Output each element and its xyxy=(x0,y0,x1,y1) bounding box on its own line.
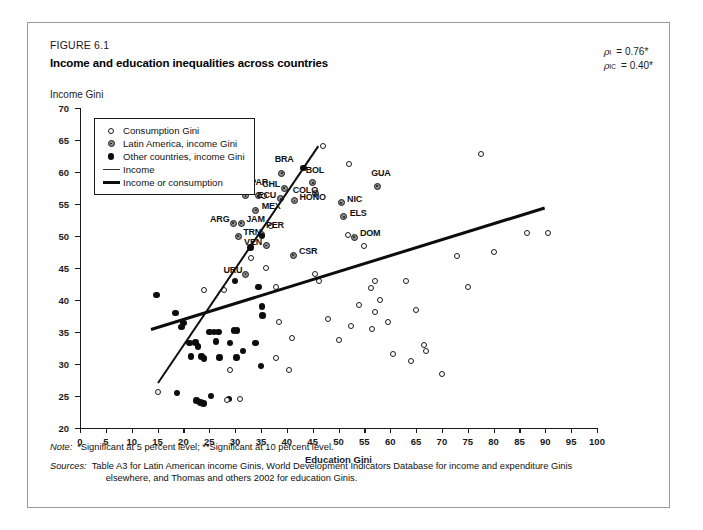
y-tick xyxy=(75,332,80,333)
data-point xyxy=(172,310,179,317)
data-point xyxy=(545,230,551,236)
country-label: ARG xyxy=(210,214,229,224)
sources-label: Sources: xyxy=(50,460,87,484)
y-tick-label: 40 xyxy=(58,295,69,306)
data-point xyxy=(255,284,262,291)
data-point xyxy=(325,316,331,322)
x-tick xyxy=(313,428,314,433)
country-label: JAM xyxy=(246,214,264,224)
data-point xyxy=(195,343,202,350)
data-point xyxy=(290,252,297,259)
data-point xyxy=(208,393,215,400)
data-point xyxy=(237,396,243,402)
figure-number: FIGURE 6.1 xyxy=(50,39,109,51)
note-label: Note: xyxy=(50,441,72,453)
rho-incomecons-subscript: IC xyxy=(610,60,617,73)
data-point xyxy=(291,197,298,204)
data-point xyxy=(235,233,242,240)
data-point xyxy=(491,249,497,255)
x-tick xyxy=(132,428,133,433)
filled-circle-icon xyxy=(101,153,121,160)
rho-incomecons-value: = 0.40* xyxy=(621,59,653,72)
sources-line: Sources: Table A3 for Latin American inc… xyxy=(50,460,651,484)
rho-income-value: = 0.76* xyxy=(616,45,648,58)
data-point xyxy=(385,319,391,325)
data-point xyxy=(478,151,484,157)
data-point xyxy=(348,323,354,329)
sources-text-2: elsewhere, and Thomas and others 2002 fo… xyxy=(106,472,651,484)
data-point xyxy=(408,358,414,364)
y-tick xyxy=(75,204,80,205)
data-point xyxy=(346,161,352,167)
data-point xyxy=(356,302,362,308)
legend-label: Income or consumption xyxy=(123,177,223,188)
figure-frame: FIGURE 6.1 Income and education inequali… xyxy=(27,22,670,508)
data-point xyxy=(252,207,259,214)
data-point xyxy=(258,363,265,370)
country-label: CSR xyxy=(299,246,317,256)
data-point xyxy=(234,327,241,334)
country-label: BOL xyxy=(306,165,324,175)
country-label: NIC xyxy=(347,194,362,204)
legend-label: Other countries, income Gini xyxy=(123,151,245,162)
country-label: ELS xyxy=(350,208,367,218)
thin-line-icon xyxy=(101,169,121,171)
y-tick xyxy=(75,364,80,365)
y-tick xyxy=(75,236,80,237)
y-tick-label: 50 xyxy=(58,231,69,242)
y-axis-line xyxy=(80,108,81,429)
data-point xyxy=(390,351,396,357)
y-tick-label: 60 xyxy=(58,167,69,178)
data-point xyxy=(252,340,259,347)
data-point xyxy=(289,335,295,341)
figure-notes: Note: *Significant at 5 percent level; *… xyxy=(50,441,651,491)
country-label: DOM xyxy=(360,228,380,238)
grey-dot-circle-icon xyxy=(101,140,121,147)
data-point xyxy=(224,397,230,403)
y-tick-label: 30 xyxy=(58,359,69,370)
sources-text-1: Table A3 for Latin American income Ginis… xyxy=(92,461,572,471)
x-tick xyxy=(519,428,520,433)
legend-item: Other countries, income Gini xyxy=(101,150,245,163)
data-point xyxy=(201,355,208,362)
data-point xyxy=(372,309,378,315)
data-point xyxy=(338,199,345,206)
data-point xyxy=(259,312,266,319)
x-tick xyxy=(287,428,288,433)
data-point xyxy=(345,232,351,238)
data-point xyxy=(242,271,249,278)
country-label: CHL xyxy=(262,179,280,189)
legend-item: Income xyxy=(101,163,245,176)
data-point xyxy=(248,255,254,261)
data-point xyxy=(439,371,445,377)
x-tick xyxy=(364,428,365,433)
country-label: BRA xyxy=(275,154,294,164)
data-point xyxy=(465,284,471,290)
legend-label: Latin America, income Gini xyxy=(123,138,237,149)
y-tick xyxy=(75,108,80,109)
data-point xyxy=(273,355,279,361)
data-point xyxy=(227,340,234,347)
y-tick xyxy=(75,428,80,429)
note-text: *Significant at 5 percent level; **Signi… xyxy=(77,441,651,453)
legend-label: Consumption Gini xyxy=(123,125,199,136)
legend-item: Income or consumption xyxy=(101,176,245,189)
hollow-circle-icon xyxy=(101,128,121,134)
x-tick xyxy=(442,428,443,433)
data-point xyxy=(232,278,239,285)
x-tick xyxy=(494,428,495,433)
legend-label: Income xyxy=(123,164,154,175)
rho-incomecons-row: ρIC = 0.40* xyxy=(604,59,653,73)
data-point xyxy=(454,253,460,259)
data-point xyxy=(372,278,378,284)
y-tick xyxy=(75,172,80,173)
data-point xyxy=(155,389,161,395)
data-point xyxy=(423,348,429,354)
data-point xyxy=(286,367,292,373)
data-point xyxy=(276,319,282,325)
x-tick xyxy=(339,428,340,433)
y-tick xyxy=(75,268,80,269)
data-point xyxy=(340,213,347,220)
y-axis-title: Income Gini xyxy=(50,89,103,100)
chart-legend: Consumption GiniLatin America, income Gi… xyxy=(94,118,255,195)
